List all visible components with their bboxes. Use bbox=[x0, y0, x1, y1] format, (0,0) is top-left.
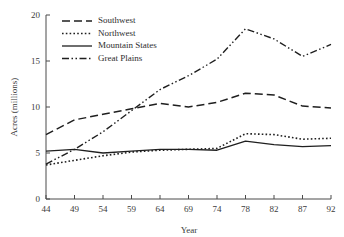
legend-label-northwest: Northwest bbox=[98, 28, 136, 38]
legend-label-southwest: Southwest bbox=[98, 15, 136, 25]
y-tick-label: 5 bbox=[36, 148, 41, 158]
y-tick-label: 10 bbox=[31, 102, 41, 112]
y-axis-ticks: 05101520 bbox=[31, 10, 50, 204]
x-tick-label: 49 bbox=[70, 204, 80, 214]
x-tick-label: 54 bbox=[99, 204, 109, 214]
legend-label-mountain-states: Mountain States bbox=[98, 40, 157, 50]
y-tick-label: 20 bbox=[31, 10, 41, 20]
x-tick-label: 92 bbox=[327, 204, 336, 214]
x-tick-label: 59 bbox=[127, 204, 137, 214]
x-tick-label: 64 bbox=[156, 204, 166, 214]
legend-label-great-plains: Great Plains bbox=[98, 53, 143, 63]
x-axis-title: Year bbox=[181, 225, 198, 235]
x-tick-label: 78 bbox=[241, 204, 251, 214]
x-tick-label: 87 bbox=[298, 204, 308, 214]
x-tick-label: 69 bbox=[184, 204, 194, 214]
series-line-great-plains bbox=[46, 29, 331, 164]
line-chart: 05101520 4449545964697478828792 Southwes… bbox=[0, 0, 344, 237]
chart-legend: SouthwestNorthwestMountain StatesGreat P… bbox=[62, 15, 157, 63]
y-tick-label: 0 bbox=[36, 194, 41, 204]
x-tick-label: 82 bbox=[270, 204, 279, 214]
y-tick-label: 15 bbox=[31, 56, 41, 66]
series-line-southwest bbox=[46, 93, 331, 134]
y-axis-title: Acres (millions) bbox=[9, 78, 19, 137]
chart-figure: 05101520 4449545964697478828792 Southwes… bbox=[0, 0, 344, 237]
x-tick-label: 74 bbox=[213, 204, 223, 214]
series-line-mountain-states bbox=[46, 141, 331, 153]
x-axis-ticks: 4449545964697478828792 bbox=[42, 195, 336, 214]
x-tick-label: 44 bbox=[42, 204, 52, 214]
chart-series-lines bbox=[46, 29, 331, 165]
